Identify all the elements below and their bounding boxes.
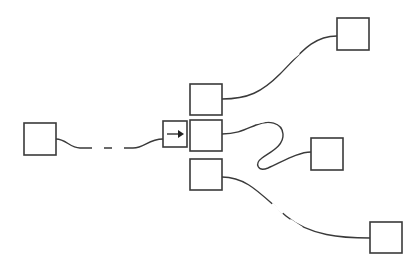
link-link-hubmid-to-midright (222, 120, 311, 169)
node-hub-middle[interactable] (190, 120, 222, 151)
link-link-hubtop-to-topright (222, 36, 337, 99)
node-box[interactable] (24, 123, 56, 155)
node-box[interactable] (311, 138, 343, 170)
nodes-layer (24, 18, 402, 253)
node-hub-top[interactable] (190, 84, 222, 115)
node-arrow-gate[interactable] (163, 121, 187, 147)
node-link-diagram (0, 0, 420, 272)
node-box[interactable] (190, 159, 222, 190)
link-link-hubbot-to-botright (222, 177, 370, 238)
node-box[interactable] (190, 120, 222, 151)
link-path (222, 36, 337, 99)
node-target-top-right[interactable] (337, 18, 369, 50)
node-source-left[interactable] (24, 123, 56, 155)
link-path (222, 177, 370, 238)
node-box[interactable] (370, 222, 402, 253)
node-box[interactable] (337, 18, 369, 50)
node-target-bot-right[interactable] (370, 222, 402, 253)
diagram-canvas (0, 0, 420, 272)
link-link-source-to-gate (56, 139, 163, 148)
link-dash-gap (268, 53, 299, 80)
node-hub-bottom[interactable] (190, 159, 222, 190)
node-box[interactable] (190, 84, 222, 115)
link-path (56, 139, 163, 148)
link-path (222, 122, 311, 169)
node-target-mid-right[interactable] (311, 138, 343, 170)
